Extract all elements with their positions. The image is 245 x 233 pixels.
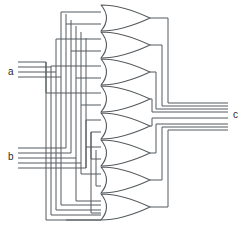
riser-wires-upper <box>46 12 61 93</box>
input-bus-a <box>18 62 61 220</box>
input-label-a: a <box>8 66 14 77</box>
input-label-b: b <box>8 151 14 162</box>
riser-wires-lower <box>46 120 101 220</box>
feeder-wires-upper <box>46 12 101 105</box>
input-bus-b <box>18 14 86 168</box>
feeder-wires-lower <box>76 120 101 213</box>
output-bus-c <box>152 103 228 130</box>
logic-circuit-svg: a b c <box>0 0 245 233</box>
output-label-c: c <box>233 109 238 120</box>
or-gate-5[interactable] <box>101 113 152 139</box>
or-gate-4[interactable] <box>101 86 152 112</box>
circuit-diagram-canvas: a b c <box>0 0 245 233</box>
